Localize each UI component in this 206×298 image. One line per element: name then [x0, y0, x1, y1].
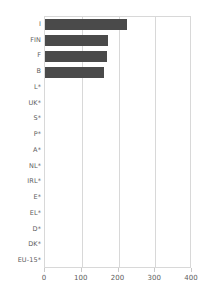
y-axis-tick-label: UK* — [0, 99, 41, 107]
y-axis-tick-label: EU-15* — [0, 256, 41, 264]
bar-row — [45, 253, 190, 269]
plot-area — [44, 16, 191, 268]
y-axis-tick-label: A* — [0, 146, 41, 154]
y-axis-tick-label: P* — [0, 130, 41, 138]
bar-row — [45, 143, 190, 159]
x-axis-tick — [191, 268, 192, 272]
bars-group — [45, 17, 190, 267]
bar-row — [45, 206, 190, 222]
bar-row — [45, 112, 190, 128]
x-axis-tick-label: 200 — [105, 274, 131, 282]
y-axis-tick-label: E* — [0, 193, 41, 201]
x-axis-tick — [154, 268, 155, 272]
x-axis-tick-label: 0 — [31, 274, 57, 282]
bar-chart: IFINFBL*UK*S*P*A*NL*IRL*E*EL*D*DK*EU-15*… — [0, 0, 206, 298]
bar-row — [45, 175, 190, 191]
y-axis-tick-label: IRL* — [0, 177, 41, 185]
y-axis-tick-label: F — [0, 51, 41, 59]
bar-row — [45, 80, 190, 96]
bar-row — [45, 49, 190, 65]
x-axis-tick-label: 400 — [178, 274, 204, 282]
x-axis-tick-label: 100 — [68, 274, 94, 282]
bar-row — [45, 64, 190, 80]
bar-row — [45, 159, 190, 175]
bar[interactable] — [45, 51, 107, 62]
x-axis-ticks — [44, 268, 191, 273]
bar-row — [45, 17, 190, 33]
y-axis-tick-label: EL* — [0, 209, 41, 217]
y-axis-tick-label: S* — [0, 114, 41, 122]
x-axis-tick-labels: 0100200300400 — [0, 274, 206, 286]
bar-row — [45, 127, 190, 143]
y-axis-tick-label: FIN — [0, 36, 41, 44]
bar-row — [45, 33, 190, 49]
bar-row — [45, 238, 190, 254]
x-axis-tick — [118, 268, 119, 272]
bar-row — [45, 190, 190, 206]
y-axis-tick-label: DK* — [0, 240, 41, 248]
x-axis-tick-label: 300 — [141, 274, 167, 282]
bar[interactable] — [45, 67, 104, 78]
bar[interactable] — [45, 35, 108, 46]
y-axis-tick-label: L* — [0, 83, 41, 91]
bar-row — [45, 96, 190, 112]
y-axis-tick-label: D* — [0, 225, 41, 233]
x-axis-tick — [81, 268, 82, 272]
y-axis-category-labels: IFINFBL*UK*S*P*A*NL*IRL*E*EL*D*DK*EU-15* — [0, 16, 41, 268]
y-axis-tick-label: B — [0, 67, 41, 75]
x-axis-tick — [44, 268, 45, 272]
bar[interactable] — [45, 19, 127, 30]
y-axis-tick-label: NL* — [0, 162, 41, 170]
bar-row — [45, 222, 190, 238]
y-axis-tick-label: I — [0, 20, 41, 28]
